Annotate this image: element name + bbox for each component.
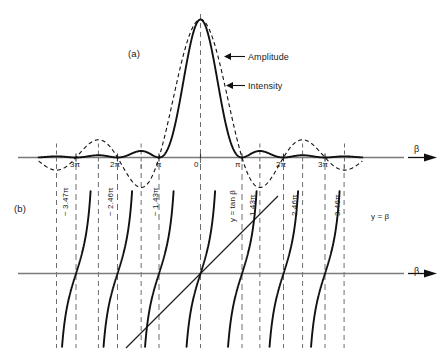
root-label-neg-1-43pi: − 1.43π — [151, 187, 160, 216]
panel-a-tick-label-neg-pi: π — [156, 160, 162, 169]
line-y-equals-beta-label: y = β — [371, 212, 389, 221]
root-label-neg-3-47pi: − 3.47π — [61, 187, 70, 216]
panel-a-plot — [18, 14, 437, 187]
panel-a-tick-label-pos-3pi: 3π — [318, 160, 328, 169]
root-label-pos-2-46pi: 2.46π — [290, 194, 299, 216]
root-label-neg-2-46pi: − 2.46π — [106, 187, 115, 216]
intensity-annotation-label: Intensity — [248, 81, 282, 91]
panel-a-tick-label-pos-2pi: 2π — [276, 160, 286, 169]
panel-a-tick-label-zero: 0 — [194, 160, 199, 169]
figure-canvas — [0, 0, 441, 352]
root-label-pos-1-43pi: 1.43π — [248, 194, 257, 216]
panel-a-label: (a) — [128, 48, 140, 59]
panel-a-tick-label-neg-3pi: 3π — [70, 160, 80, 169]
panel-b-axis-label: β — [414, 266, 419, 276]
amplitude-annotation-label: Amplitude — [248, 52, 289, 62]
diffraction-figure: (a) Amplitude Intensity β 3π 2π π 0 π 2π… — [0, 0, 441, 352]
panel-a-tick-label-neg-2pi: 2π — [110, 160, 120, 169]
root-label-pos-3-46pi: 3.46π — [333, 194, 342, 216]
panel-a-tick-label-pos-pi: π — [235, 160, 241, 169]
tangent-curve-label: y = tan β — [228, 190, 237, 222]
panel-b-label: (b) — [14, 203, 26, 214]
panel-a-axis-label: β — [414, 144, 419, 154]
